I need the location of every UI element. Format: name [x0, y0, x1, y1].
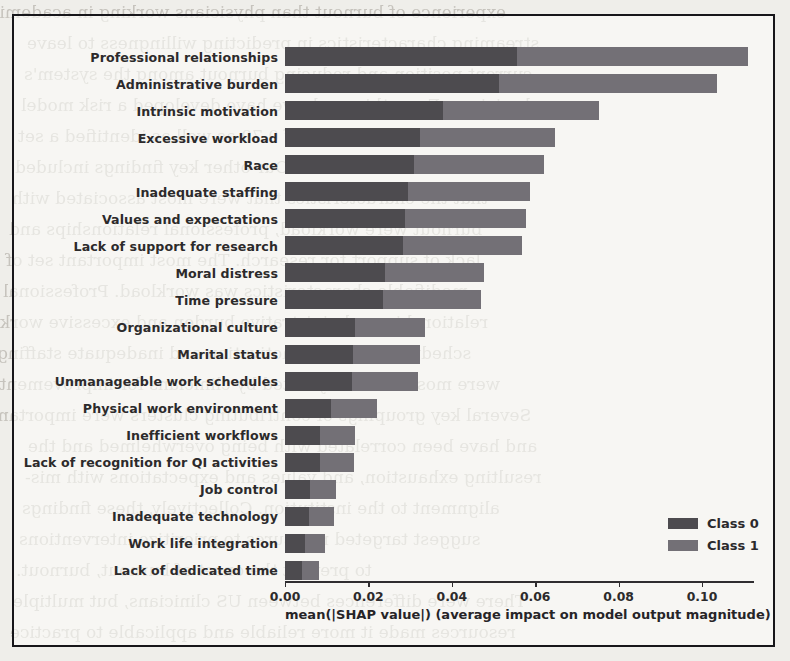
- bar-segment-class-1: [320, 426, 355, 445]
- bar-row: Excessive workload: [14, 128, 777, 147]
- bar-row: Work life integration: [14, 534, 777, 553]
- bar-segment-class-1: [355, 318, 425, 337]
- plot-area: Professional relationshipsAdministrative…: [14, 16, 773, 645]
- bar-segment-class-0: [285, 209, 405, 228]
- bar-segment-class-0: [285, 290, 383, 309]
- x-axis-tick: [535, 582, 536, 587]
- bar-segment-class-0: [285, 426, 320, 445]
- legend-item: Class 1: [668, 538, 759, 553]
- bar-row: Inadequate technology: [14, 507, 777, 526]
- bar-segment-class-0: [285, 318, 355, 337]
- bar-segment-class-1: [310, 480, 336, 499]
- bar-segment-class-0: [285, 263, 385, 282]
- bar-row: Time pressure: [14, 290, 777, 309]
- x-axis-tick: [368, 582, 369, 587]
- bar-segment-class-0: [285, 372, 352, 391]
- bar-segment-class-1: [320, 453, 354, 472]
- x-axis-tick-label: 0.04: [437, 589, 468, 604]
- bar-row-label: Race: [243, 157, 278, 172]
- legend-swatch: [668, 518, 698, 529]
- bar-row: Organizational culture: [14, 318, 777, 337]
- bar-segment-class-1: [405, 209, 526, 228]
- x-axis-tick: [702, 582, 703, 587]
- bar-row: Inadequate staffing: [14, 182, 777, 201]
- bar-row-label: Lack of dedicated time: [114, 563, 278, 578]
- bar-segment-class-0: [285, 561, 302, 580]
- bar-segment-class-0: [285, 128, 420, 147]
- bar-row-label: Work life integration: [128, 536, 278, 551]
- bar-row: Job control: [14, 480, 777, 499]
- bar-segment-class-1: [499, 74, 717, 93]
- bar-segment-class-1: [517, 47, 748, 66]
- x-axis-tick-label: 0.08: [603, 589, 634, 604]
- bar-row-label: Job control: [200, 482, 278, 497]
- bar-segment-class-1: [414, 155, 544, 174]
- bar-segment-class-1: [420, 128, 555, 147]
- x-axis-tick-label: 0.10: [687, 589, 718, 604]
- bar-segment-class-1: [305, 534, 325, 553]
- bar-row: Lack of recognition for QI activities: [14, 453, 777, 472]
- bar-segment-class-1: [383, 290, 481, 309]
- bar-segment-class-1: [403, 236, 522, 255]
- x-axis-tick-label: 0.06: [520, 589, 551, 604]
- bar-row: Marital status: [14, 345, 777, 364]
- bar-row-label: Intrinsic motivation: [136, 103, 278, 118]
- legend-swatch: [668, 540, 698, 551]
- bar-segment-class-0: [285, 534, 305, 553]
- bar-row: Lack of support for research: [14, 236, 777, 255]
- bar-segment-class-0: [285, 101, 443, 120]
- bar-row-label: Marital status: [177, 347, 278, 362]
- figure-frame: Professional relationshipsAdministrative…: [12, 14, 775, 647]
- bar-segment-class-1: [309, 507, 334, 526]
- bar-row-label: Values and expectations: [102, 211, 278, 226]
- bar-segment-class-1: [331, 399, 377, 418]
- bar-row: Inefficient workflows: [14, 426, 777, 445]
- legend: Class 0Class 1: [668, 516, 759, 553]
- bar-segment-class-0: [285, 480, 310, 499]
- x-axis-tick-label: 0.02: [353, 589, 384, 604]
- bar-segment-class-0: [285, 399, 331, 418]
- bar-segment-class-0: [285, 182, 408, 201]
- bar-segment-class-0: [285, 345, 353, 364]
- x-axis-tick: [285, 582, 286, 587]
- legend-item: Class 0: [668, 516, 759, 531]
- bar-segment-class-0: [285, 453, 320, 472]
- bar-row: Unmanageable work schedules: [14, 372, 777, 391]
- legend-label: Class 0: [707, 516, 759, 531]
- bar-row-label: Lack of support for research: [74, 238, 278, 253]
- bar-row-label: Organizational culture: [117, 320, 278, 335]
- bar-row-label: Excessive workload: [138, 130, 278, 145]
- bar-row: Moral distress: [14, 263, 777, 282]
- bar-row: Lack of dedicated time: [14, 561, 777, 580]
- x-axis-label: mean(|SHAP value|) (average impact on mo…: [285, 607, 754, 622]
- bar-row-label: Lack of recognition for QI activities: [24, 455, 278, 470]
- bar-segment-class-0: [285, 47, 517, 66]
- bar-segment-class-0: [285, 74, 499, 93]
- x-axis-tick-label: 0.00: [270, 589, 301, 604]
- bar-row-label: Time pressure: [175, 292, 278, 307]
- bar-row-label: Inefficient workflows: [126, 428, 278, 443]
- x-axis-tick: [452, 582, 453, 587]
- bar-segment-class-1: [302, 561, 319, 580]
- bar-row-label: Moral distress: [175, 265, 278, 280]
- bar-row-label: Physical work environment: [83, 401, 278, 416]
- bar-row: Race: [14, 155, 777, 174]
- bar-segment-class-1: [352, 372, 418, 391]
- x-axis-tick: [619, 582, 620, 587]
- bar-row-label: Administrative burden: [116, 76, 278, 91]
- bar-segment-class-1: [443, 101, 599, 120]
- legend-label: Class 1: [707, 538, 759, 553]
- bar-segment-class-0: [285, 155, 414, 174]
- bar-row: Professional relationships: [14, 47, 777, 66]
- bar-row-label: Inadequate technology: [112, 509, 278, 524]
- bar-row: Values and expectations: [14, 209, 777, 228]
- bar-segment-class-0: [285, 507, 309, 526]
- bar-segment-class-0: [285, 236, 403, 255]
- bar-row-label: Unmanageable work schedules: [55, 374, 278, 389]
- bar-row: Intrinsic motivation: [14, 101, 777, 120]
- bar-row-label: Inadequate staffing: [136, 184, 278, 199]
- bar-row: Administrative burden: [14, 74, 777, 93]
- bar-row: Physical work environment: [14, 399, 777, 418]
- bar-segment-class-1: [408, 182, 531, 201]
- bar-segment-class-1: [353, 345, 420, 364]
